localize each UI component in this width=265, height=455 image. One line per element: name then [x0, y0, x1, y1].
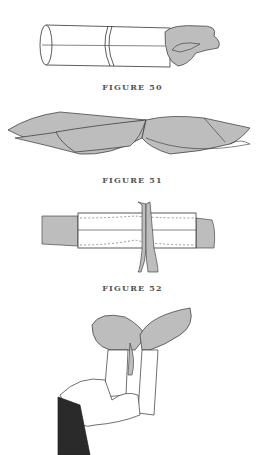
- figure-53-illustration: [0, 305, 265, 455]
- figure-51-illustration: [0, 108, 265, 163]
- figure-52-illustration: [0, 200, 265, 275]
- figure-50-caption: FIGURE 50: [0, 82, 265, 92]
- figure-51-caption: FIGURE 51: [0, 175, 265, 185]
- figure-50-illustration: [0, 20, 265, 75]
- figure-52-caption: FIGURE 52: [0, 283, 265, 293]
